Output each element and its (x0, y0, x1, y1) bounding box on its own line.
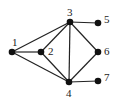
edge-3-6 (70, 22, 98, 52)
node-5 (95, 20, 102, 27)
edge-4-7 (69, 81, 98, 82)
edge-3-5 (70, 22, 98, 23)
node-6 (95, 49, 102, 56)
node-label-2: 2 (48, 45, 54, 57)
node-1 (9, 49, 16, 56)
node-label-7: 7 (104, 71, 110, 83)
edge-4-6 (69, 52, 98, 82)
node-label-4: 4 (66, 87, 72, 99)
graph-diagram: 1234567 (0, 0, 117, 99)
node-7 (95, 78, 102, 85)
node-3 (67, 19, 74, 26)
node-label-3: 3 (67, 6, 73, 18)
node-4 (66, 79, 73, 86)
node-label-6: 6 (104, 45, 110, 57)
node-2 (38, 49, 45, 56)
node-label-5: 5 (104, 13, 110, 25)
node-label-1: 1 (12, 36, 18, 48)
edges-layer (12, 22, 98, 82)
edge-3-4 (69, 22, 70, 82)
edge-1-4 (12, 52, 69, 82)
edge-2-4 (41, 52, 69, 82)
edge-2-3 (41, 22, 70, 52)
edge-1-3 (12, 22, 70, 52)
